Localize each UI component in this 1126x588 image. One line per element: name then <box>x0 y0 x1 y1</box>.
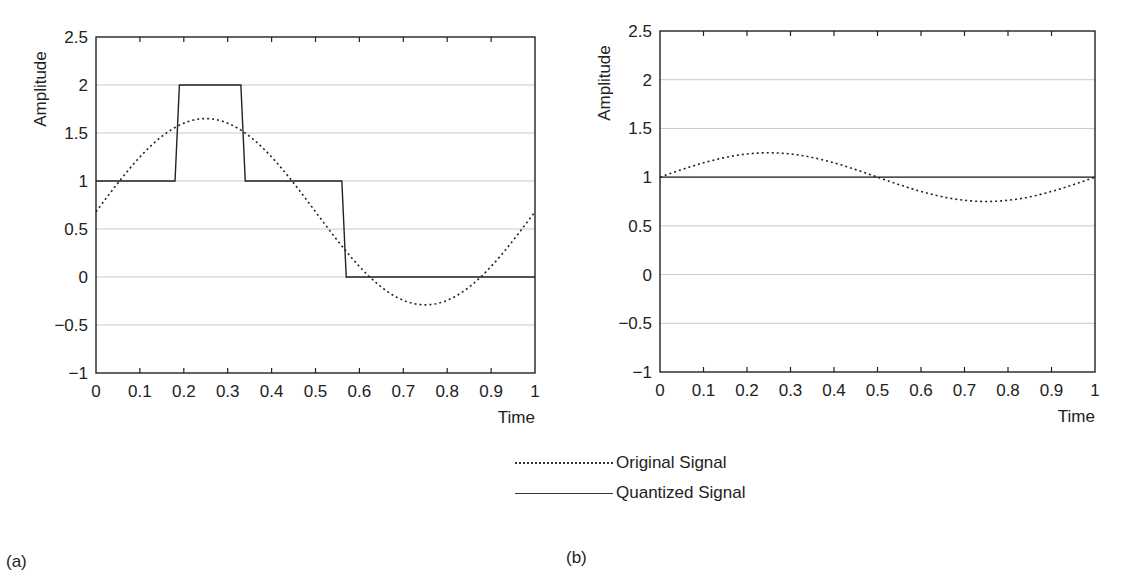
dotted-line-swatch <box>515 462 613 464</box>
plot-a: −1−0.500.511.522.500.10.20.30.40.50.60.7… <box>31 28 540 427</box>
svg-text:−1: −1 <box>633 363 652 382</box>
svg-text:−0.5: −0.5 <box>54 316 88 335</box>
svg-text:−0.5: −0.5 <box>618 314 652 333</box>
solid-line-swatch <box>515 493 613 494</box>
svg-text:0.4: 0.4 <box>822 381 846 400</box>
plot-b: −1−0.500.511.522.500.10.20.30.40.50.60.7… <box>595 22 1100 426</box>
legend-item-quantized: Quantized Signal <box>515 478 745 508</box>
svg-text:0: 0 <box>79 268 88 287</box>
svg-text:0.2: 0.2 <box>735 381 759 400</box>
svg-text:2: 2 <box>643 71 652 90</box>
svg-text:1.5: 1.5 <box>64 124 88 143</box>
svg-text:0: 0 <box>643 266 652 285</box>
svg-text:0.9: 0.9 <box>479 382 503 401</box>
svg-text:0.1: 0.1 <box>692 381 716 400</box>
svg-text:Time: Time <box>1058 407 1095 426</box>
svg-text:0: 0 <box>91 382 100 401</box>
svg-text:0.6: 0.6 <box>348 382 372 401</box>
svg-text:0.7: 0.7 <box>953 381 977 400</box>
svg-text:1: 1 <box>530 382 539 401</box>
svg-text:0.5: 0.5 <box>866 381 890 400</box>
svg-text:0.7: 0.7 <box>391 382 415 401</box>
svg-text:Amplitude: Amplitude <box>31 51 50 127</box>
svg-text:0.5: 0.5 <box>304 382 328 401</box>
svg-text:2.5: 2.5 <box>628 22 652 41</box>
panel-label-b: (b) <box>566 548 587 568</box>
svg-text:0.8: 0.8 <box>435 382 459 401</box>
svg-text:1.5: 1.5 <box>628 119 652 138</box>
svg-text:1: 1 <box>1090 381 1099 400</box>
svg-text:0.3: 0.3 <box>216 382 240 401</box>
legend: Original Signal Quantized Signal <box>515 448 745 508</box>
svg-text:0.9: 0.9 <box>1040 381 1064 400</box>
svg-text:1: 1 <box>643 168 652 187</box>
svg-text:2: 2 <box>79 76 88 95</box>
svg-text:Amplitude: Amplitude <box>595 45 614 121</box>
svg-text:−1: −1 <box>69 364 88 383</box>
svg-text:0.8: 0.8 <box>996 381 1020 400</box>
svg-text:0.5: 0.5 <box>628 217 652 236</box>
svg-text:1: 1 <box>79 172 88 191</box>
legend-item-original: Original Signal <box>515 448 745 478</box>
svg-text:0.2: 0.2 <box>172 382 196 401</box>
svg-text:0.1: 0.1 <box>128 382 152 401</box>
svg-text:0: 0 <box>655 381 664 400</box>
svg-text:2.5: 2.5 <box>64 28 88 47</box>
svg-text:0.5: 0.5 <box>64 220 88 239</box>
svg-text:0.3: 0.3 <box>779 381 803 400</box>
svg-text:Time: Time <box>498 408 535 427</box>
svg-text:0.4: 0.4 <box>260 382 284 401</box>
panel-label-a: (a) <box>6 552 27 572</box>
svg-text:0.6: 0.6 <box>909 381 933 400</box>
